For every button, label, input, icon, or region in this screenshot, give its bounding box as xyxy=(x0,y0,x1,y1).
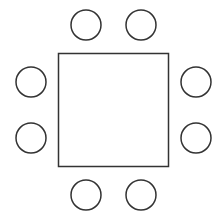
chair-left-bottom xyxy=(16,123,46,153)
chairs xyxy=(16,10,211,210)
chair-bottom-left xyxy=(71,180,101,210)
table xyxy=(59,54,169,167)
chair-bottom-right xyxy=(126,180,156,210)
chair-right-bottom xyxy=(181,123,211,153)
chair-left-top xyxy=(16,67,46,97)
chair-top-right xyxy=(126,10,156,40)
seating-diagram xyxy=(0,0,221,223)
chair-right-top xyxy=(181,67,211,97)
chair-top-left xyxy=(71,10,101,40)
